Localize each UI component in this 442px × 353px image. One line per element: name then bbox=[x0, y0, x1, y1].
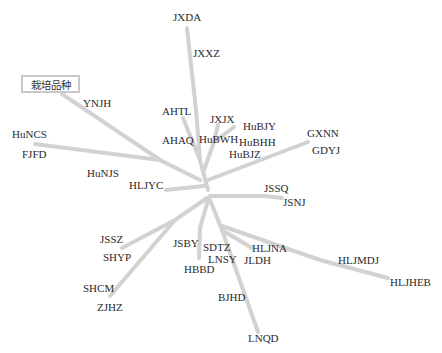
cultivar-legend-box: 栽培品种 bbox=[21, 75, 80, 93]
phylogenetic-tree: 栽培品种 JXDA JXXZ YNJH AHTL JXJX HuBJY AHAQ… bbox=[0, 0, 442, 353]
taxon-label: ZJHZ bbox=[97, 302, 123, 313]
taxon-label: SHYP bbox=[103, 252, 131, 263]
branch-lnqd bbox=[210, 200, 258, 332]
branch-jssq bbox=[210, 196, 282, 198]
taxon-label: JSSQ bbox=[264, 183, 288, 194]
taxon-label: JLDH bbox=[244, 255, 271, 266]
taxon-label: SDTZ bbox=[203, 242, 231, 253]
branch-hljyc bbox=[166, 186, 204, 190]
taxon-label: YNJH bbox=[83, 98, 111, 109]
taxon-label: HuNCS bbox=[12, 129, 47, 140]
taxon-label: JSNJ bbox=[283, 197, 306, 208]
taxon-label: LNQD bbox=[248, 333, 279, 344]
taxon-label: SHCM bbox=[83, 283, 114, 294]
taxon-label: GDYJ bbox=[312, 145, 340, 156]
taxon-label: HLJMDJ bbox=[338, 255, 379, 266]
taxon-label: HuBJZ bbox=[229, 149, 261, 160]
taxon-label: FJFD bbox=[22, 149, 46, 160]
taxon-label: JXJX bbox=[210, 114, 234, 125]
taxon-label: HuBJY bbox=[243, 121, 276, 132]
taxon-label: HuBWH bbox=[199, 134, 238, 145]
taxon-label: JXDA bbox=[173, 12, 201, 23]
taxon-label: HuNJS bbox=[87, 168, 119, 179]
taxon-label: JSBY bbox=[173, 238, 199, 249]
taxon-label: AHAQ bbox=[162, 135, 194, 146]
taxon-label: GXNN bbox=[307, 128, 339, 139]
taxon-label: JXXZ bbox=[193, 48, 220, 59]
taxon-label: HuBHH bbox=[239, 137, 276, 148]
taxon-label: HLJNA bbox=[252, 243, 287, 254]
branch-hljheb bbox=[222, 226, 388, 278]
branch-jxjx-group bbox=[204, 125, 218, 170]
taxon-label: HLJYC bbox=[129, 180, 163, 191]
taxon-label: HBBD bbox=[184, 264, 215, 275]
taxon-label: JSSZ bbox=[100, 234, 123, 245]
taxon-label: BJHD bbox=[218, 292, 246, 303]
taxon-label: HLJHEB bbox=[390, 277, 431, 288]
taxon-label: AHTL bbox=[162, 106, 191, 117]
